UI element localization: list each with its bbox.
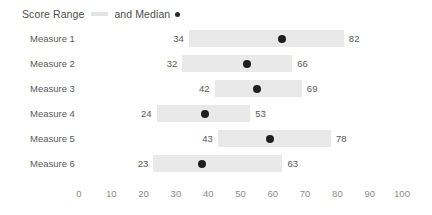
row-label: Measure 3 [30,76,75,101]
range-max-value: 78 [331,126,347,151]
row-label: Measure 2 [30,51,75,76]
chart-row: Measure 34269 [0,76,432,101]
median-marker [243,60,251,68]
x-axis-tick-label: 100 [394,186,410,202]
score-range-chart: Score Range and Median Measure 13482Meas… [0,0,432,215]
x-axis-tick-label: 90 [364,186,375,202]
row-label: Measure 6 [30,151,75,176]
range-min-value: 42 [199,76,215,101]
x-axis-tick-label: 80 [332,186,343,202]
x-axis-tick-label: 10 [106,186,117,202]
x-axis-tick-label: 50 [235,186,246,202]
median-marker [253,85,261,93]
x-axis: 0102030405060708090100 [0,186,432,202]
range-max-value: 69 [302,76,318,101]
x-axis-tick-label: 40 [203,186,214,202]
row-label: Measure 4 [30,101,75,126]
row-label: Measure 1 [30,26,75,51]
median-marker [266,135,274,143]
chart-row: Measure 42453 [0,101,432,126]
x-axis-tick-label: 0 [76,186,81,202]
chart-row: Measure 13482 [0,26,432,51]
x-axis-tick-label: 60 [268,186,279,202]
median-marker [201,110,209,118]
range-min-value: 23 [138,151,154,176]
plot-area: Measure 13482Measure 23266Measure 34269M… [0,26,432,181]
x-axis-tick-label: 70 [300,186,311,202]
legend-range-swatch-icon [91,12,108,16]
median-marker [198,160,206,168]
range-max-value: 82 [344,26,360,51]
range-max-value: 53 [250,101,266,126]
legend-range-label: Score Range [22,8,84,20]
legend-median-label: and Median [114,8,170,20]
range-min-value: 24 [141,101,157,126]
range-min-value: 43 [202,126,218,151]
chart-row: Measure 23266 [0,51,432,76]
range-min-value: 34 [173,26,189,51]
chart-legend: Score Range and Median [22,6,180,22]
legend-median-dot-icon [175,12,180,17]
range-bar [153,155,282,172]
range-min-value: 32 [167,51,183,76]
x-axis-tick-label: 30 [171,186,182,202]
chart-row: Measure 62363 [0,151,432,176]
range-bar [218,130,331,147]
range-max-value: 66 [292,51,308,76]
x-axis-tick-label: 20 [138,186,149,202]
chart-row: Measure 54378 [0,126,432,151]
row-label: Measure 5 [30,126,75,151]
range-max-value: 63 [282,151,298,176]
range-bar [182,55,292,72]
range-bar [189,30,344,47]
